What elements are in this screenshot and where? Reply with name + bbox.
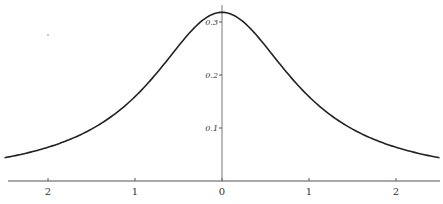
x-axis: 21012 xyxy=(8,178,440,197)
y-tick-label: 0.1 xyxy=(205,124,218,133)
x-tick-label: 1 xyxy=(132,186,138,197)
x-tick-label: 2 xyxy=(45,186,51,197)
y-tick-label: 0.2 xyxy=(205,71,218,80)
speck xyxy=(47,34,49,36)
density-chart: 21012 0.10.20.3 xyxy=(0,0,443,204)
x-tick-label: 0 xyxy=(219,186,225,197)
x-tick-label: 1 xyxy=(306,186,312,197)
y-axis: 0.10.20.3 xyxy=(205,5,222,181)
y-tick-label: 0.3 xyxy=(205,18,218,27)
x-tick-label: 2 xyxy=(393,186,399,197)
